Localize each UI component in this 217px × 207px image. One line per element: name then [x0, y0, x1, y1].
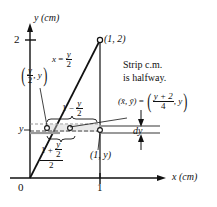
paren-open: ( [21, 67, 25, 83]
y-axis [27, 23, 33, 178]
point-apex-label: (1, 2) [104, 34, 126, 44]
x-axis-label: x (cm) [172, 172, 197, 182]
note-line-2: is halfway. [123, 73, 166, 83]
origin-label: 0 [18, 182, 24, 193]
point-right-strip-marker [98, 128, 103, 133]
line-equation-label: x = y2 [52, 50, 72, 69]
cm-paren-close: ) [184, 93, 188, 109]
note-line-1: Strip c.m. [123, 60, 162, 70]
fraction-outer-numerator: 1 + y2 [40, 141, 63, 160]
point-left-strip-label: (y2, y) [20, 66, 48, 85]
dy-thickness-label: dy [133, 126, 142, 136]
point-right-strip-label: (1, y) [90, 150, 111, 160]
fraction-y-over-2: y2 [27, 66, 34, 85]
cm-paren-open: ( [147, 93, 151, 109]
fraction-outer-midpoint: 1 + y2 2 [40, 141, 63, 171]
cm-comma-y: , y [174, 97, 183, 106]
y-tick-label-2: 2 [14, 34, 20, 45]
fraction-y-plus-2-over-4: y + 24 [153, 92, 174, 111]
figure-canvas: y (cm) x (cm) 2 1 0 y (1, 2) (1, y) (y2,… [0, 0, 217, 207]
point-apex-marker [97, 37, 102, 42]
center-of-mass-formula: (x̄, ȳ) = (y + 24, y) [118, 92, 189, 111]
fraction-outer-denominator: 2 [40, 160, 63, 170]
y-axis-label: y (cm) [34, 13, 59, 23]
x-tick-label-1: 1 [97, 182, 103, 193]
dy-arrow-up [138, 134, 144, 150]
point-strip-cm-marker [68, 126, 73, 131]
fraction-y-over-2-equation: y2 [66, 50, 73, 69]
leader-left-point [40, 88, 47, 126]
y-value-label: y [19, 124, 23, 134]
fraction-inner-y-over-2: y2 [55, 140, 62, 159]
x-axis [10, 175, 166, 181]
fraction-y-over-2-width: y2 [76, 99, 83, 118]
strip-width-label: 1 − y2 [62, 99, 83, 118]
cm-left-hand-side: (x̄, ȳ) [118, 97, 136, 106]
point-left-strip-marker [45, 126, 50, 131]
midpoint-expression-label: 1 + y2 2 [40, 141, 63, 171]
paren-close: ) [43, 67, 47, 83]
